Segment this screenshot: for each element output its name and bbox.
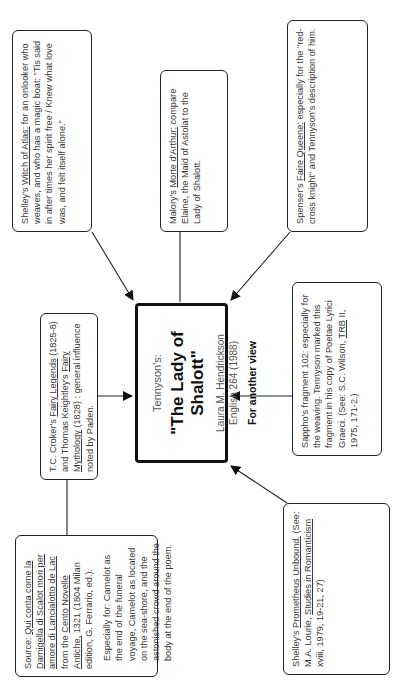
sappho-text: Sappho's fragment 102: especially for th… [299,290,360,448]
another-view-link[interactable]: For another view [246,306,258,460]
work-title: Witch of Atlas: [20,127,30,185]
diagram-canvas: Tennyson's: "The Lady of Shalott" Laura … [0,0,402,681]
source-box-qui-conta: Source: Qui conta come la Damigella di S… [15,535,158,677]
center-title-box: Tennyson's: "The Lady of Shalott" Laura … [135,303,228,463]
work-title: Prometheus Unbound. [291,536,301,628]
arrow-spenser [231,232,290,300]
spenser-text: Spenser's Faire Queene: especially for t… [294,28,318,224]
prometheus-text: Shelley's Prometheus Unbound. (See: M.A.… [290,511,327,667]
center-subtitle: Tennyson's: [150,306,164,460]
source-box-witch-of-atlas: Shelley's Witch of Atlas: for an onlooke… [12,30,92,232]
qui-conta-text: Source: Qui conta come la Damigella di S… [22,543,95,669]
malory-text: Malory's Morte d'Arthur: compare Elaine,… [167,78,204,224]
work-title: TRB [337,320,347,338]
croker-text: T.C. Croker's Fairy Legends (1825-8) and… [47,321,96,472]
center-title: "The Lady of Shalott" [168,306,208,460]
witch-of-atlas-text: Shelley's Witch of Atlas: for an onlooke… [19,38,68,224]
arrow-witch-of-atlas [92,232,133,300]
work-title: Morte d'Arthur: [168,127,178,187]
source-box-malory: Malory's Morte d'Arthur: compare Elaine,… [160,70,228,232]
qui-conta-note: Especially for: Camelot as the end of th… [101,543,174,669]
work-title: Studies in Romanticism [303,519,313,615]
source-box-sappho: Sappho's fragment 102: especially for th… [292,282,382,456]
source-box-croker: T.C. Croker's Fairy Legends (1825-8) and… [40,313,98,480]
source-box-prometheus: Shelley's Prometheus Unbound. (See: M.A.… [283,503,390,675]
source-box-spenser: Spenser's Faire Queene: especially for t… [287,20,368,232]
work-title: Fairy Legends [48,358,58,416]
center-course: English 264 (1988) [227,306,240,460]
work-title: Faire Queene: [295,122,305,181]
arrow-prometheus [231,466,287,503]
center-author: Laura M. Hendrickson [214,306,227,460]
